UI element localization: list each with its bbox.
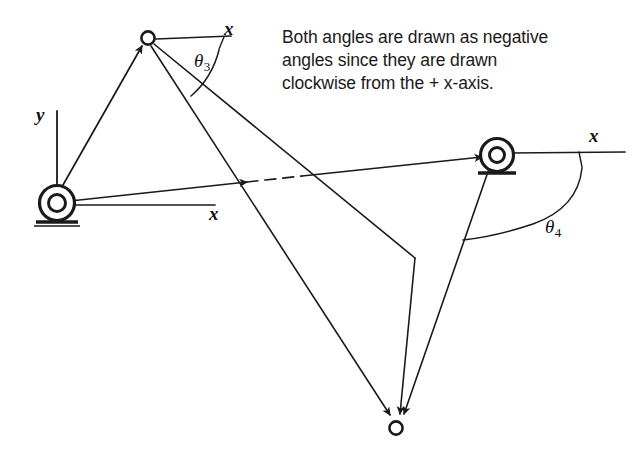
x-axis-right-tick — [579, 152, 582, 167]
theta4-symbol: θ — [545, 216, 554, 237]
theta4-label: θ4 — [545, 216, 561, 241]
ground-pivot-right — [478, 139, 516, 174]
joint-top — [141, 31, 154, 44]
note-line-1: Both angles are drawn as negative — [282, 26, 632, 49]
joint-bottom — [389, 421, 402, 434]
explanatory-note: Both angles are drawn as negative angles… — [282, 26, 632, 95]
y-axis-label: y — [36, 104, 44, 126]
x-axis-top-label: x — [224, 18, 234, 40]
theta3-symbol: θ — [194, 50, 203, 71]
theta3-label: θ3 — [194, 50, 210, 75]
link1-ground — [70, 157, 482, 201]
x-axis-left-label: x — [209, 203, 219, 225]
link2-left-crank — [59, 46, 142, 192]
x-axis-right — [510, 152, 625, 153]
ground-pivot-left — [34, 186, 80, 227]
link3-coupler-lower — [151, 46, 390, 415]
ground-link-segment-left — [70, 182, 247, 201]
ground-link-dashed-segment — [247, 176, 302, 182]
link4-right-rocker — [404, 166, 490, 414]
note-line-3: clockwise from the + x-axis. — [282, 72, 632, 95]
theta3-subscript: 3 — [203, 59, 210, 74]
theta4-subscript: 4 — [554, 225, 561, 240]
theta4-arc — [463, 168, 582, 240]
note-line-2: angles since they are drawn — [282, 49, 632, 72]
ground-link-segment-right — [302, 157, 482, 176]
x-axis-right-label: x — [589, 125, 599, 147]
x-axis-top — [156, 36, 231, 39]
figure-canvas: Both angles are drawn as negative angles… — [0, 0, 635, 459]
